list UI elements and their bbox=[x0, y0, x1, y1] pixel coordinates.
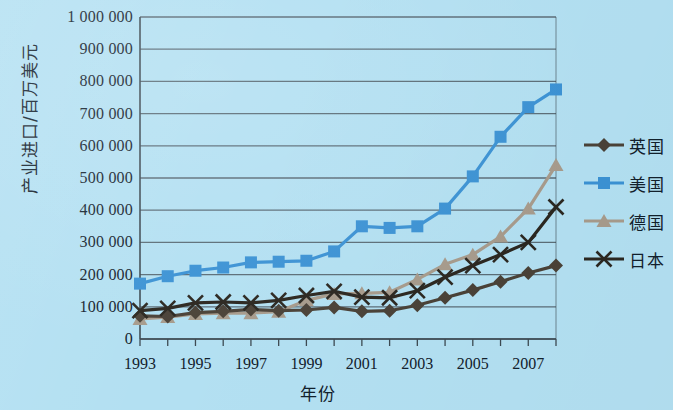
legend-item-2[interactable]: 德国 bbox=[583, 202, 671, 240]
data-point-marker bbox=[598, 177, 610, 189]
data-point-marker bbox=[162, 270, 174, 282]
data-point-marker bbox=[273, 256, 285, 268]
legend-marker-triangle-icon bbox=[583, 211, 625, 231]
legend-label: 日本 bbox=[625, 247, 665, 272]
legend-item-3[interactable]: 日本 bbox=[583, 240, 671, 278]
series-line bbox=[140, 89, 556, 283]
data-point-marker bbox=[521, 266, 535, 280]
data-point-marker bbox=[327, 300, 341, 314]
data-point-marker bbox=[217, 262, 229, 274]
data-point-marker bbox=[245, 256, 257, 268]
data-point-marker bbox=[521, 202, 536, 215]
data-point-marker bbox=[300, 255, 312, 267]
legend-marker-cross-icon bbox=[583, 249, 625, 269]
data-point-marker bbox=[384, 222, 396, 234]
data-point-marker bbox=[439, 203, 451, 215]
data-point-marker bbox=[134, 278, 146, 290]
series-cross bbox=[133, 199, 564, 318]
legend-label: 美国 bbox=[625, 171, 665, 196]
data-point-marker bbox=[467, 170, 479, 182]
data-point-marker bbox=[494, 275, 508, 289]
legend-item-1[interactable]: 美国 bbox=[583, 164, 671, 202]
chart-legend: 英国美国德国日本 bbox=[583, 126, 671, 278]
data-point-marker bbox=[438, 270, 453, 285]
data-point-marker bbox=[550, 83, 562, 95]
data-point-marker bbox=[189, 265, 201, 277]
data-point-marker bbox=[493, 247, 508, 262]
chart-container: 1 000 000900 000800 000700 000600 000500… bbox=[0, 0, 673, 410]
data-point-marker bbox=[597, 138, 611, 152]
data-point-marker bbox=[522, 101, 534, 113]
data-point-marker bbox=[438, 291, 452, 305]
legend-label: 德国 bbox=[625, 209, 665, 234]
data-point-marker bbox=[549, 158, 564, 171]
data-point-marker bbox=[383, 304, 397, 318]
data-point-marker bbox=[466, 283, 480, 297]
legend-item-0[interactable]: 英国 bbox=[583, 126, 671, 164]
legend-marker-square-icon bbox=[583, 173, 625, 193]
legend-label: 英国 bbox=[625, 133, 665, 158]
legend-marker-diamond-icon bbox=[583, 135, 625, 155]
data-point-marker bbox=[328, 245, 340, 257]
plot-area bbox=[0, 0, 673, 410]
data-point-marker bbox=[495, 131, 507, 143]
data-point-marker bbox=[411, 220, 423, 232]
data-point-marker bbox=[549, 259, 563, 273]
data-point-marker bbox=[410, 298, 424, 312]
data-point-marker bbox=[356, 220, 368, 232]
